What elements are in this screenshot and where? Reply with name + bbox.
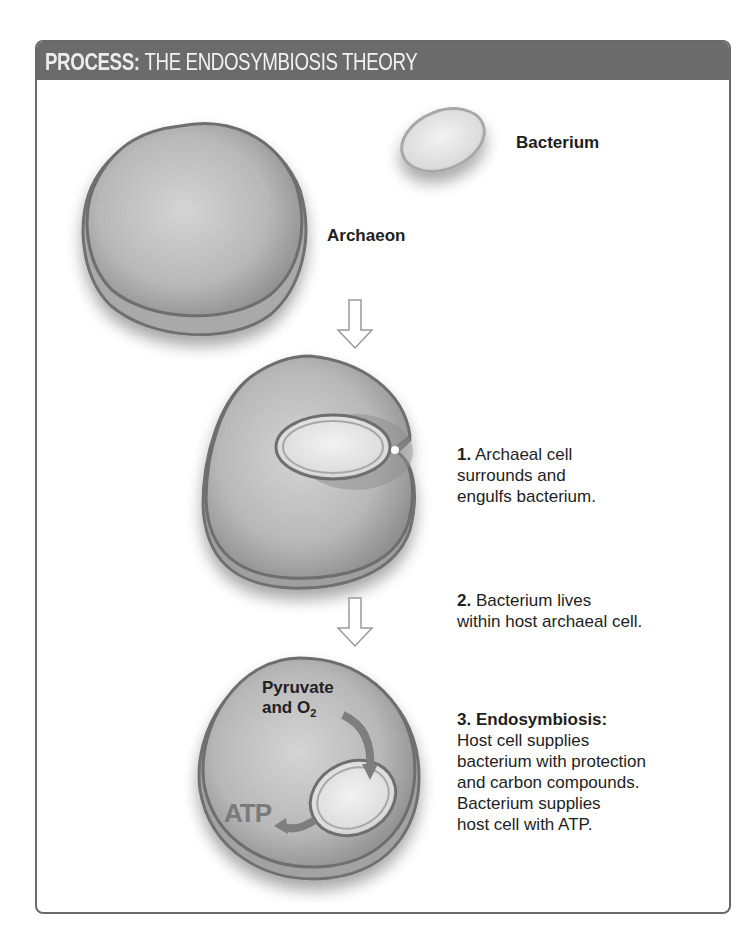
bacterium-cell bbox=[392, 97, 493, 183]
bacterium-label: Bacterium bbox=[516, 132, 599, 153]
archaeon-label: Archaeon bbox=[327, 225, 405, 246]
step-number: 3. bbox=[457, 710, 471, 729]
step-3-text: 3. Endosymbiosis: Host cell supplies bac… bbox=[457, 709, 646, 835]
engulfing-cell bbox=[203, 356, 414, 588]
archaeon-cell bbox=[83, 123, 306, 334]
atp-label: ATP bbox=[224, 798, 271, 829]
pyruvate-label: Pyruvate and O2 bbox=[262, 678, 334, 723]
step-number: 2. bbox=[457, 591, 471, 610]
down-arrow-icon bbox=[338, 300, 372, 348]
step-heading: Endosymbiosis: bbox=[476, 710, 607, 729]
step-2-text: 2. Bacterium lives within host archaeal … bbox=[457, 590, 642, 632]
down-arrow-icon bbox=[338, 598, 372, 646]
step-number: 1. bbox=[457, 445, 471, 464]
step-1-text: 1. Archaeal cell surrounds and engulfs b… bbox=[457, 444, 596, 507]
